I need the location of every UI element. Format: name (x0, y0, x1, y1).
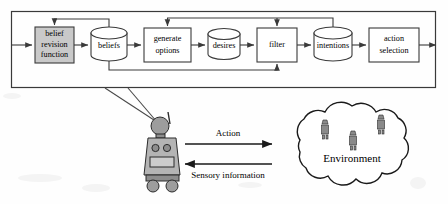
node-label-line: options (155, 46, 179, 55)
edge-beliefs-to-filter-feedback (109, 61, 277, 70)
robot-agent[interactable] (144, 112, 180, 192)
node-action-selection[interactable]: action selection (369, 28, 419, 62)
node-label-line: belief (45, 29, 64, 38)
edge-beliefs-to-belief-revision-feedback (55, 19, 110, 27)
node-desires[interactable]: desires (208, 29, 240, 60)
robot-head (151, 117, 169, 135)
robot-eye-right (163, 144, 170, 151)
diagram-canvas: belief revision function beliefs generat… (0, 0, 448, 204)
robot-wheel-left (147, 180, 159, 192)
node-label-line: desires (213, 41, 236, 50)
node-intentions[interactable]: intentions (314, 27, 352, 61)
node-belief-revision-function[interactable]: belief revision function (35, 27, 74, 63)
edge-intentions-to-generate-options-feedback (168, 18, 334, 27)
callout-pointer (105, 88, 157, 122)
node-label-line: function (41, 50, 68, 59)
node-label-line: beliefs (98, 41, 120, 50)
robot-eye-left (152, 144, 159, 151)
robot-screen (150, 157, 174, 167)
node-beliefs[interactable]: beliefs (91, 27, 127, 61)
environment-label: Environment (323, 152, 380, 164)
environment-cloud[interactable]: Environment (297, 102, 408, 185)
action-arrow-label: Action (216, 128, 241, 138)
node-filter[interactable]: filter (257, 28, 297, 62)
robot-neck (156, 134, 165, 138)
node-label-line: selection (379, 46, 408, 55)
node-label-line: intentions (317, 41, 349, 50)
sensory-arrow-label: Sensory information (191, 170, 265, 180)
node-label-line: filter (269, 40, 285, 49)
node-label-line: revision (41, 40, 67, 49)
node-label-line: action (384, 34, 404, 43)
node-label-line: generate (154, 34, 182, 43)
node-generate-options[interactable]: generate options (144, 28, 191, 62)
robot-wheel-right (166, 180, 178, 192)
